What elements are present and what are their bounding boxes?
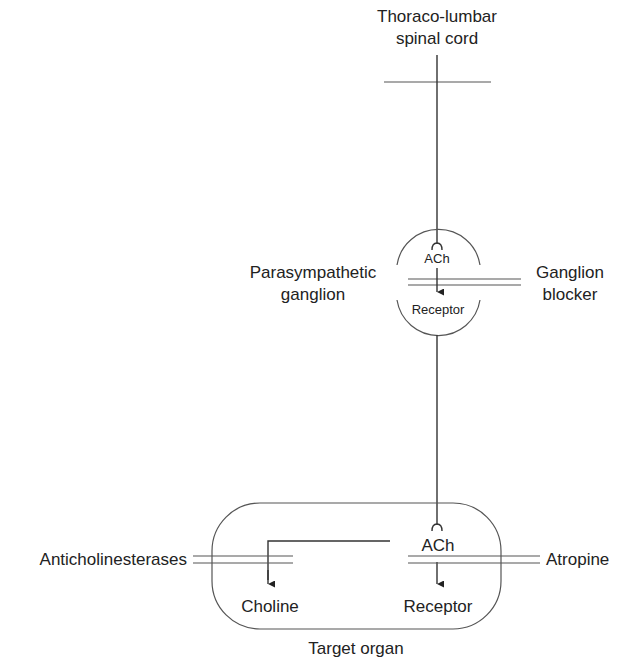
ganglion-ach-label: ACh <box>424 251 449 266</box>
atropine-label: Atropine <box>546 550 609 569</box>
ganglion-blocker-label-line1: Ganglion <box>536 263 604 282</box>
target-organ-label: Target organ <box>308 639 403 658</box>
target-ach-label: ACh <box>421 536 454 555</box>
anticholinesterases-label: Anticholinesterases <box>40 550 187 569</box>
source-label-line1: Thoraco-lumbar <box>377 7 497 26</box>
ganglion-blocker-label-line2: blocker <box>543 285 598 304</box>
postganglionic-terminal <box>432 524 442 531</box>
ganglion-label-line2: ganglion <box>281 285 345 304</box>
ganglion-receptor-label: Receptor <box>412 302 465 317</box>
target-receptor-label: Receptor <box>404 597 473 616</box>
choline-label: Choline <box>241 597 299 616</box>
ach-to-choline-path <box>268 541 390 580</box>
ganglion-label-line1: Parasympathetic <box>250 263 377 282</box>
preganglionic-terminal <box>432 243 442 250</box>
autonomic-pathway-diagram: Thoraco-lumbar spinal cord ACh Receptor … <box>0 0 628 666</box>
source-label-line2: spinal cord <box>396 29 478 48</box>
